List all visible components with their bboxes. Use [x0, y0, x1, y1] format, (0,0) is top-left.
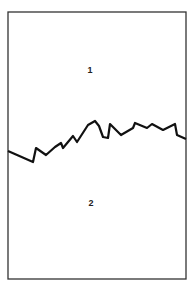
diagram: 1 2 — [0, 0, 196, 290]
region-label-2: 2 — [88, 198, 93, 208]
diagram-frame — [8, 12, 186, 279]
boundary-line — [8, 121, 186, 162]
region-label-1: 1 — [87, 65, 92, 75]
